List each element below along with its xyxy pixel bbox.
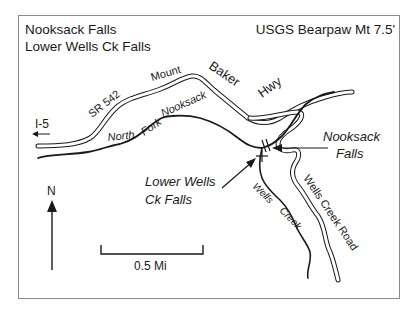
map-title-line-1: Nooksack Falls [25, 22, 117, 37]
quad-label: USGS Bearpaw Mt 7.5' [256, 22, 395, 37]
scale-label: 0.5 Mi [134, 259, 167, 273]
label-nooksack-falls-1: Nooksack [323, 129, 382, 144]
label-lower-wells-falls-1: Lower Wells [145, 174, 216, 189]
map-title-line-2: Lower Wells Ck Falls [25, 39, 151, 54]
label-i5: I-5 [35, 117, 49, 131]
trail-map: Nooksack Falls Lower Wells Ck Falls USGS… [0, 0, 419, 315]
north-label: N [47, 184, 56, 198]
label-nooksack-falls-2: Falls [336, 146, 364, 161]
label-lower-wells-falls-2: Ck Falls [145, 192, 192, 207]
